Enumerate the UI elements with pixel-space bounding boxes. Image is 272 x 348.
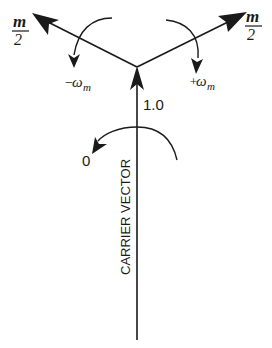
svg-text:m: m <box>13 12 26 31</box>
carrier-rotation-arrow <box>92 127 177 160</box>
svg-text:ω: ω <box>72 74 83 90</box>
phasor-diagram: m 2 m 2 − ω m + ω m 1.0 0 CARRIER VECTOR <box>0 0 272 348</box>
carrier-rotation-label: 0 <box>82 152 90 169</box>
upper-rotation-arrowhead-icon <box>191 58 203 74</box>
svg-text:2: 2 <box>247 26 255 43</box>
lower-rotation-arrowhead-icon <box>68 54 80 68</box>
lower-rotation-label: − ω m <box>64 74 91 93</box>
svg-text:2: 2 <box>14 31 22 48</box>
upper-sideband-amplitude-label: m 2 <box>245 7 262 43</box>
svg-text:m: m <box>83 81 91 93</box>
carrier-vector-label: CARRIER VECTOR <box>118 159 133 275</box>
upper-rotation-label: + ω m <box>189 73 215 92</box>
svg-text:m: m <box>207 80 215 92</box>
upper-rotation-arrow <box>166 20 203 74</box>
carrier-amplitude-label: 1.0 <box>143 96 164 113</box>
lower-sideband-vector <box>32 13 137 67</box>
lower-sideband-amplitude-label: m 2 <box>12 12 29 48</box>
svg-text:m: m <box>246 7 259 26</box>
svg-text:ω: ω <box>196 73 207 89</box>
upper-sideband-arrowhead-icon <box>218 12 247 32</box>
lower-sideband-arrowhead-icon <box>32 13 59 35</box>
